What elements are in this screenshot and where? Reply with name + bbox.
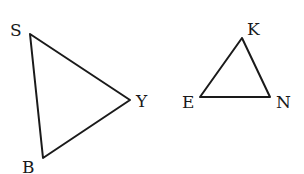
triangle-ken — [200, 38, 270, 97]
diagram-canvas: S Y B K E N — [0, 0, 304, 174]
vertex-label-e: E — [182, 92, 194, 112]
vertex-label-b: B — [22, 157, 35, 174]
triangle-syb — [30, 34, 130, 158]
vertex-label-k: K — [247, 19, 260, 39]
vertex-label-n: N — [276, 92, 291, 112]
vertex-label-s: S — [10, 20, 22, 40]
vertex-label-y: Y — [135, 91, 148, 111]
